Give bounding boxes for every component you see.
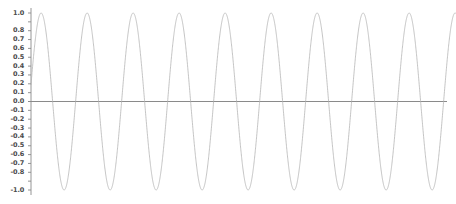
y-axis-tick-label: -0.8: [2, 169, 24, 176]
y-axis-tick-label: 0.3: [2, 71, 24, 78]
y-axis-tick-label: 0.4: [2, 63, 24, 70]
y-axis-tick-label: 0.0: [2, 98, 24, 105]
y-axis-tick-label: -0.2: [2, 116, 24, 123]
y-axis-tick-label: -0.5: [2, 142, 24, 149]
y-axis-tick-label: 0.2: [2, 80, 24, 87]
y-axis-tick-label: 0.6: [2, 45, 24, 52]
y-axis-tick-label: 0.8: [2, 27, 24, 34]
y-axis-tick-label: -0.6: [2, 151, 24, 158]
y-axis-tick-label: -0.7: [2, 160, 24, 167]
y-axis-tick-label: 0.5: [2, 54, 24, 61]
chart-figure: 1.00.80.70.60.50.40.30.20.10.0-0.1-0.2-0…: [0, 0, 456, 204]
y-axis-tick-label: -0.3: [2, 125, 24, 132]
sine-wave-plot: [0, 0, 456, 204]
y-axis-tick-label: 0.1: [2, 89, 24, 96]
y-axis-tick-label: 1.0: [2, 10, 24, 17]
y-axis-tick-label: -0.1: [2, 107, 24, 114]
y-axis-tick-label: -1.0: [2, 187, 24, 194]
y-axis-tick-label: -0.4: [2, 133, 24, 140]
y-axis-tick-label: 0.7: [2, 36, 24, 43]
